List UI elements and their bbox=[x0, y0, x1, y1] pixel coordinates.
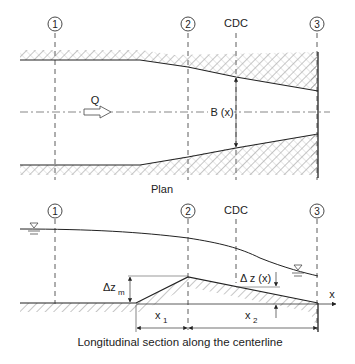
flow-label: Q bbox=[91, 94, 100, 106]
section-marker-1-long: 1 bbox=[48, 204, 62, 218]
cdc-label-section: CDC bbox=[224, 204, 248, 216]
svg-text:1: 1 bbox=[163, 316, 168, 325]
svg-text:3: 3 bbox=[314, 206, 320, 217]
dz-x-label: Δ z (x) bbox=[240, 272, 271, 284]
section-marker-2: 2 bbox=[181, 17, 195, 31]
svg-text:1: 1 bbox=[52, 206, 58, 217]
svg-text:3: 3 bbox=[314, 19, 320, 30]
section-marker-2-long: 2 bbox=[181, 204, 195, 218]
water-level-icon-left bbox=[28, 223, 40, 234]
water-surface bbox=[20, 229, 318, 276]
plan-view: 1 2 CDC 3 Q B (x) Plan bbox=[20, 17, 330, 195]
cdc-label-plan: CDC bbox=[224, 17, 248, 29]
section-marker-3: 3 bbox=[310, 17, 324, 31]
x2-label: x bbox=[245, 309, 251, 321]
svg-text:2: 2 bbox=[253, 316, 258, 325]
water-level-icon-right bbox=[292, 265, 304, 276]
svg-text:1: 1 bbox=[52, 19, 58, 30]
plan-title: Plan bbox=[151, 183, 173, 195]
width-label: B (x) bbox=[210, 106, 233, 118]
flow-arrow-icon bbox=[84, 106, 111, 118]
svg-text:2: 2 bbox=[185, 19, 191, 30]
section-view: 1 2 CDC 3 x bbox=[20, 204, 336, 348]
svg-text:m: m bbox=[118, 288, 125, 297]
x1-label: x bbox=[155, 309, 161, 321]
svg-text:2: 2 bbox=[185, 206, 191, 217]
diagram-canvas: 1 2 CDC 3 Q B (x) Plan bbox=[0, 0, 355, 364]
x-axis-label: x bbox=[329, 288, 335, 300]
dz-m-label: Δz bbox=[103, 281, 116, 293]
section-marker-3-long: 3 bbox=[310, 204, 324, 218]
section-title: Longitudinal section along the centerlin… bbox=[77, 336, 282, 348]
section-marker-1: 1 bbox=[48, 17, 62, 31]
